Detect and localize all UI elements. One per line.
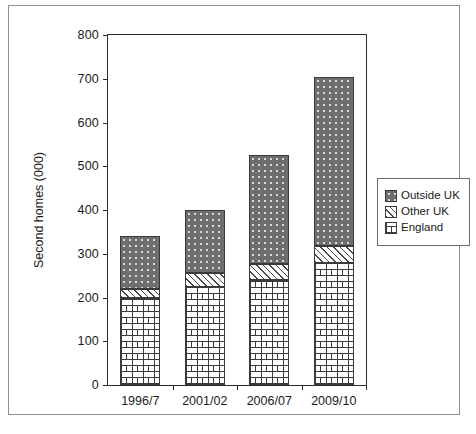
- x-axis-tick-label: 2001/02: [182, 394, 227, 408]
- brick-pattern-overlay: [121, 299, 159, 385]
- plot-area: 0100200300400500600700800 1996/72001/022…: [107, 34, 367, 386]
- chart-frame: Second homes (000) 010020030040050060070…: [8, 5, 460, 415]
- brick-pattern-overlay: [186, 288, 224, 384]
- y-axis-tick-mark: [103, 123, 108, 124]
- legend-label: Other UK: [401, 206, 449, 218]
- y-axis-tick-mark: [103, 166, 108, 167]
- bar-segment-outside-uk: [185, 210, 225, 273]
- bar-segment-other-uk: [120, 289, 160, 298]
- x-axis-tick-mark: [302, 385, 303, 390]
- x-axis-tick-label: 2009/10: [311, 394, 356, 408]
- bar-stack: [185, 35, 225, 385]
- bar-segment-england: [249, 280, 289, 385]
- x-axis-tick-label: 1996/7: [121, 394, 159, 408]
- y-axis-tick-mark: [103, 79, 108, 80]
- brick-pattern-overlay: [386, 223, 396, 233]
- y-axis-tick-mark: [103, 298, 108, 299]
- bar-segment-england: [314, 263, 354, 386]
- y-axis-tick-mark: [103, 254, 108, 255]
- legend-label: England: [401, 222, 443, 234]
- x-axis-tick-mark: [173, 385, 174, 390]
- x-axis-tick-label: 2006/07: [247, 394, 292, 408]
- bar-segment-other-uk: [314, 246, 354, 262]
- bar-segment-outside-uk: [314, 77, 354, 247]
- bar-segment-outside-uk: [120, 236, 160, 289]
- bar-stack: [120, 35, 160, 385]
- bar-stack: [314, 35, 354, 385]
- bar-segment-other-uk: [185, 273, 225, 286]
- brick-pattern-overlay: [315, 264, 353, 385]
- legend-swatch-england: [385, 222, 397, 234]
- bar-segment-england: [185, 287, 225, 385]
- legend-item: Other UK: [385, 206, 460, 218]
- y-axis-title: Second homes (000): [32, 152, 46, 268]
- legend-item: Outside UK: [385, 190, 460, 202]
- y-axis-tick-mark: [103, 341, 108, 342]
- legend-swatch-other-uk: [385, 206, 397, 218]
- bar-stack: [249, 35, 289, 385]
- legend-item: England: [385, 222, 460, 234]
- bar-segment-england: [120, 298, 160, 386]
- x-axis-tick-mark: [237, 385, 238, 390]
- y-axis-tick-mark: [103, 35, 108, 36]
- y-axis-tick-mark: [103, 385, 108, 386]
- chart-legend: Outside UKOther UKEngland: [377, 178, 470, 246]
- bar-segment-other-uk: [249, 264, 289, 280]
- y-axis-tick-mark: [103, 210, 108, 211]
- legend-swatch-outside-uk: [385, 190, 397, 202]
- bar-segment-outside-uk: [249, 155, 289, 264]
- brick-pattern-overlay: [250, 281, 288, 384]
- x-axis-tick-mark: [366, 385, 367, 390]
- legend-label: Outside UK: [401, 190, 460, 202]
